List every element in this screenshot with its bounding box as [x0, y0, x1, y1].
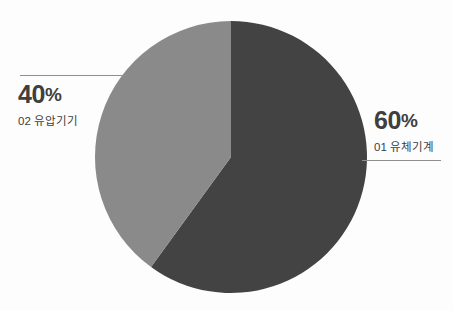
callout-right-value: 60 — [374, 106, 401, 134]
pie-chart-canvas — [0, 0, 453, 311]
callout-right-category: 01 유체기계 — [374, 142, 434, 154]
callout-right-percent: 60% — [374, 108, 434, 133]
callout-label-left: 40% 02 유압기기 — [18, 82, 78, 128]
callout-left-category: 02 유압기기 — [18, 116, 78, 128]
callout-label-right: 60% 01 유체기계 — [374, 108, 434, 154]
pie-chart-figure: 40% 02 유압기기 60% 01 유체기계 — [0, 0, 453, 311]
leader-line-left — [20, 75, 126, 76]
percent-sign-icon: % — [401, 110, 417, 131]
callout-left-percent: 40% — [18, 82, 78, 107]
percent-sign-icon: % — [45, 84, 61, 105]
leader-line-right — [362, 160, 441, 161]
pie-slices — [95, 21, 367, 293]
callout-left-value: 40 — [18, 80, 45, 108]
